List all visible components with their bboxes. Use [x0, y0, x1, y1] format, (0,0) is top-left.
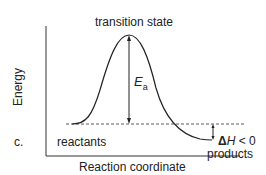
h-symbol: H: [227, 134, 236, 148]
ea-main: E: [134, 74, 143, 89]
delta-h-arrow-head-up: [212, 124, 215, 128]
arrow-head-down: [127, 118, 131, 124]
reactants-label: reactants: [57, 136, 106, 148]
arrow-head-up: [127, 35, 131, 41]
delta-symbol: Δ: [218, 134, 227, 148]
delta-h-label: ΔH < 0: [218, 135, 256, 147]
x-axis-label: Reaction coordinate: [79, 161, 186, 173]
delta-h-inequality: < 0: [235, 134, 255, 148]
y-axis-label: Energy: [12, 68, 24, 106]
products-label: products: [207, 148, 253, 160]
panel-label: c.: [14, 136, 23, 148]
ea-sub: a: [143, 82, 148, 92]
activation-energy-label: Ea: [134, 75, 148, 92]
transition-state-label: transition state: [95, 16, 173, 28]
